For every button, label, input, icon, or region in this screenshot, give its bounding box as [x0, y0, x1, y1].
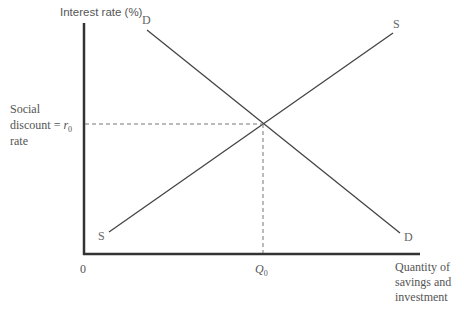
- social-label: Social: [10, 102, 40, 117]
- x-axis-label-1: Quantity of: [395, 260, 450, 275]
- q0-label: Q0: [255, 262, 268, 281]
- supply-bottom-label: S: [98, 229, 105, 244]
- demand-top-label: D: [142, 13, 151, 28]
- supply-top-label: S: [393, 17, 400, 32]
- q-symbol: Q: [255, 262, 264, 276]
- r-subscript: 0: [68, 125, 72, 134]
- demand-curve: [147, 30, 400, 233]
- supply-curve: [109, 33, 393, 232]
- origin-label: 0: [80, 262, 86, 277]
- discount-text: discount =: [10, 118, 63, 132]
- q-subscript: 0: [264, 269, 268, 278]
- demand-bottom-label: D: [404, 230, 413, 245]
- x-axis-label-3: investment: [395, 290, 448, 305]
- x-axis-label-2: savings and: [395, 275, 451, 290]
- rate-label: rate: [10, 134, 28, 149]
- y-axis-label: Interest rate (%): [60, 5, 142, 20]
